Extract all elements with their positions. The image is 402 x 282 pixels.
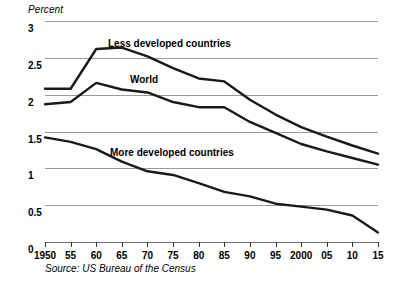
series-label-more-developed: More developed countries <box>110 147 234 158</box>
series-label-less-developed: Less developed countries <box>108 38 231 49</box>
x-tick-label-75: 75 <box>168 251 179 261</box>
x-tick-label-85: 85 <box>219 251 230 261</box>
series-label-world: World <box>130 74 158 85</box>
x-tick-label-80: 80 <box>193 251 204 261</box>
y-tick-label-2: 2 <box>28 98 34 108</box>
x-tick-label-10: 10 <box>347 251 358 261</box>
x-tick-90 <box>250 242 251 247</box>
x-tick-label-70: 70 <box>142 251 153 261</box>
x-tick-60 <box>96 242 97 247</box>
chart-root: Percent 32.521.510.50 195055606570758085… <box>0 0 402 282</box>
x-tick-95 <box>276 242 277 247</box>
x-tick-85 <box>224 242 225 247</box>
x-tick-label-65: 65 <box>116 251 127 261</box>
y-tick-label-1-5: 1.5 <box>28 135 42 145</box>
y-axis-title: Percent <box>28 4 63 15</box>
y-tick-label-3: 3 <box>28 24 34 34</box>
x-tick-70 <box>147 242 148 247</box>
x-tick-15 <box>378 242 379 247</box>
x-tick-label-60: 60 <box>91 251 102 261</box>
x-tick-label-55: 55 <box>65 251 76 261</box>
series-path-less-developed-countries <box>45 48 378 154</box>
x-tick-label-1950: 1950 <box>34 251 56 261</box>
x-tick-65 <box>122 242 123 247</box>
y-tick-label-0: 0 <box>28 245 34 255</box>
x-tick-label-05: 05 <box>321 251 332 261</box>
x-tick-label-90: 90 <box>244 251 255 261</box>
x-tick-1950 <box>45 242 46 247</box>
y-tick-label-1: 1 <box>28 171 34 181</box>
gridline-0 <box>45 242 378 243</box>
source-note: Source: US Bureau of the Census <box>45 263 196 274</box>
y-tick-label-2-5: 2.5 <box>28 61 42 71</box>
x-tick-label-2000: 2000 <box>290 251 312 261</box>
x-tick-05 <box>327 242 328 247</box>
plot-area <box>45 21 378 242</box>
x-tick-2000 <box>301 242 302 247</box>
series-lines <box>45 21 378 242</box>
x-tick-10 <box>352 242 353 247</box>
x-tick-75 <box>173 242 174 247</box>
y-tick-label-0-5: 0.5 <box>28 208 42 218</box>
x-tick-label-15: 15 <box>372 251 383 261</box>
x-tick-55 <box>71 242 72 247</box>
x-tick-80 <box>199 242 200 247</box>
x-tick-label-95: 95 <box>270 251 281 261</box>
